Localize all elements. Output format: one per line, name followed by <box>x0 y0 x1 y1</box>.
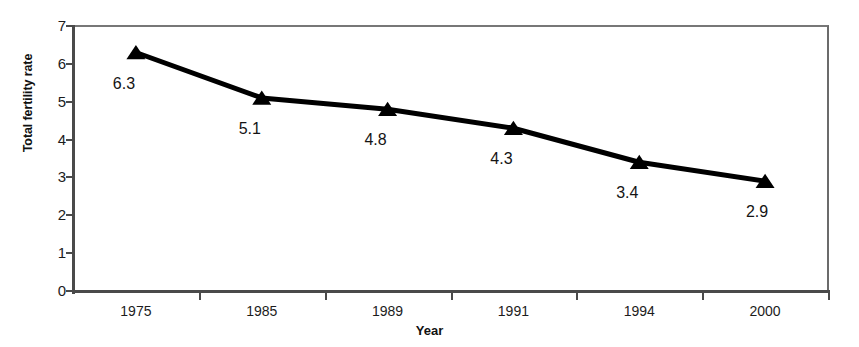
y-axis-tick-label: 3 <box>40 169 66 184</box>
data-point-label: 4.8 <box>341 131 411 149</box>
y-axis-tick-mark <box>66 63 73 65</box>
x-axis-tick-mark <box>325 292 327 300</box>
fertility-rate-line-chart: 01234567 Total fertility rate 6.35.14.84… <box>0 0 859 347</box>
x-axis-tick-mark <box>702 292 704 300</box>
y-axis-tick-mark <box>66 25 73 27</box>
y-axis-tick-label: 6 <box>40 56 66 71</box>
x-axis-title: Year <box>0 323 859 338</box>
x-axis-tick-mark <box>451 292 453 300</box>
data-point-2000 <box>754 169 776 189</box>
data-point-1991 <box>502 116 524 136</box>
data-point-label: 4.3 <box>466 150 536 168</box>
y-axis-tick-mark <box>66 290 73 292</box>
y-axis-tick-label: 7 <box>40 18 66 33</box>
x-axis-tick-label: 2000 <box>730 303 800 319</box>
y-axis-tick-label: 4 <box>40 132 66 147</box>
plot-area-frame <box>72 25 829 292</box>
x-axis-tick-mark <box>576 292 578 300</box>
x-axis-tick-label: 1989 <box>353 303 423 319</box>
y-axis-tick-mark <box>66 101 73 103</box>
data-point-label: 2.9 <box>722 203 792 221</box>
data-point-label: 6.3 <box>89 75 159 93</box>
x-axis-tick-label: 1975 <box>101 303 171 319</box>
data-point-1989 <box>377 97 399 117</box>
y-axis-tick-label: 1 <box>40 245 66 260</box>
y-axis-tick-mark <box>66 214 73 216</box>
data-point-label: 3.4 <box>592 184 662 202</box>
y-axis-tick-label: 5 <box>40 94 66 109</box>
data-point-1975 <box>125 41 147 61</box>
x-axis-tick-label: 1994 <box>604 303 674 319</box>
x-axis-tick-mark <box>199 292 201 300</box>
y-axis-tick-label: 0 <box>40 283 66 298</box>
y-axis-tick-mark <box>66 176 73 178</box>
data-point-1985 <box>251 86 273 106</box>
x-axis-tick-mark <box>828 292 830 300</box>
y-axis-tick-mark <box>66 139 73 141</box>
y-axis-tick-mark <box>66 252 73 254</box>
x-axis-tick-label: 1985 <box>227 303 297 319</box>
y-axis-tick-label: 2 <box>40 207 66 222</box>
x-axis-tick-label: 1991 <box>478 303 548 319</box>
y-axis-title: Total fertility rate <box>21 13 35 193</box>
data-point-label: 5.1 <box>215 120 285 138</box>
data-point-1994 <box>628 150 650 170</box>
